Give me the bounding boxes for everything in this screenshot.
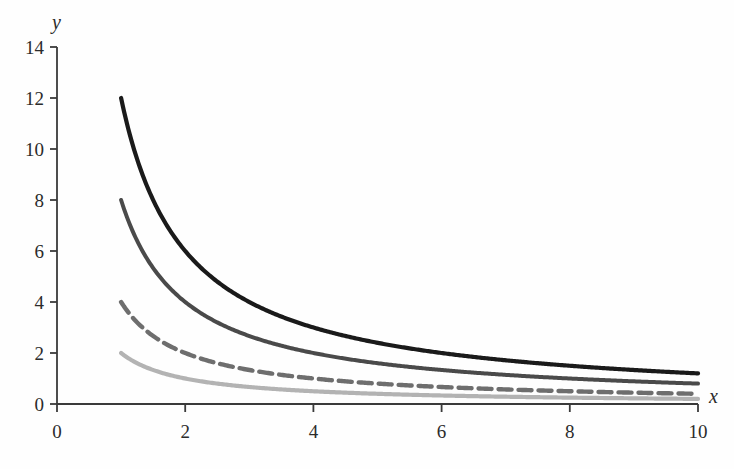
y-tick-label: 2 bbox=[0, 344, 44, 363]
y-tick-label: 12 bbox=[0, 89, 44, 108]
x-tick-label: 2 bbox=[180, 422, 190, 441]
y-tick-label: 0 bbox=[0, 395, 44, 414]
x-tick-label: 6 bbox=[437, 422, 447, 441]
chart-plot-area bbox=[0, 0, 734, 469]
curve-series-0 bbox=[121, 98, 698, 373]
y-tick-label: 6 bbox=[0, 242, 44, 261]
y-axis-label: y bbox=[52, 12, 61, 32]
y-tick-label: 14 bbox=[0, 38, 44, 57]
y-tick-label: 4 bbox=[0, 293, 44, 312]
y-tick-label: 8 bbox=[0, 191, 44, 210]
y-tick-label: 10 bbox=[0, 140, 44, 159]
data-curves bbox=[121, 98, 698, 399]
x-tick-label: 8 bbox=[565, 422, 575, 441]
curve-series-1 bbox=[121, 200, 698, 384]
axes bbox=[50, 47, 698, 412]
x-tick-label: 0 bbox=[52, 422, 62, 441]
x-tick-label: 10 bbox=[689, 422, 708, 441]
x-tick-label: 4 bbox=[309, 422, 319, 441]
chart-figure: 024681012140246810 y x bbox=[0, 0, 734, 469]
x-axis-label: x bbox=[709, 386, 718, 406]
